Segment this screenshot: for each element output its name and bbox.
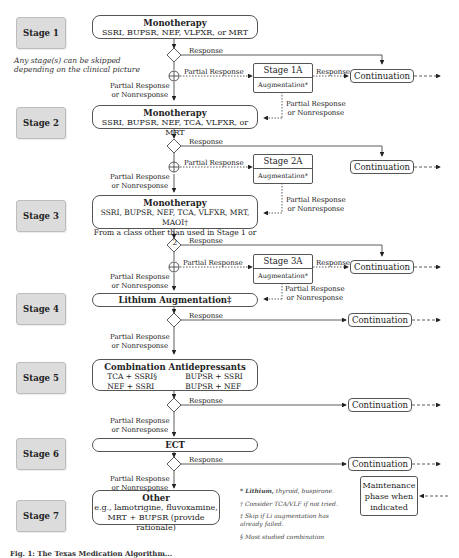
- continuation-box-2: Continuation: [350, 160, 414, 174]
- response-label: Response: [189, 47, 223, 56]
- response-label: Response: [189, 138, 223, 147]
- aug-response-label: Response: [316, 68, 350, 77]
- pr-nr-label: Partial Responseor Nonresponse: [110, 82, 170, 99]
- aug-pr-nr-label: Partial Responseor Nonresponse: [286, 196, 346, 213]
- stage-2a-augmentation-box: Stage 2A Augmentation*: [253, 154, 313, 184]
- response-label: Response: [189, 397, 223, 406]
- response-label: Response: [189, 237, 223, 246]
- pr-nr-label: Partial Responseor Nonresponse: [110, 333, 170, 350]
- response-label: Response: [189, 312, 223, 321]
- aug-response-label: Response: [316, 259, 350, 268]
- stage-5-combination-box: Combination Antidepressants TCA + SSRI§N…: [92, 359, 258, 391]
- stage-1-label: Stage 1: [16, 17, 66, 49]
- stage-6-ect-box: ECT: [92, 438, 258, 452]
- continuation-box-5: Continuation: [348, 398, 412, 412]
- stage-7-label: Stage 7: [16, 500, 66, 532]
- stage-4-label: Stage 4: [16, 293, 66, 325]
- stage-1a-augmentation-box: Stage 1A Augmentation*: [253, 63, 313, 93]
- figure-caption: Fig. 1: The Texas Medication Algorithm..…: [10, 549, 172, 558]
- continuation-box-6: Continuation: [348, 457, 412, 471]
- stage-7-other-box: Other e.g., lamotrigine, fluvoxamine, MR…: [92, 490, 220, 525]
- stage-3-monotherapy-box: Monotherapy SSRI, BUPSR, NEF, TCA, VLFXR…: [92, 195, 258, 229]
- footnote-tca: † Consider TCA/VLF if not tried.: [240, 500, 338, 508]
- stage-2-label: Stage 2: [16, 107, 66, 139]
- partial-response-label: Partial Response: [184, 68, 244, 77]
- stage-3-label: Stage 3: [16, 200, 66, 232]
- continuation-box-3: Continuation: [350, 260, 414, 274]
- continuation-box-1: Continuation: [350, 69, 414, 83]
- stage-4-lithium-box: Lithium Augmentation‡: [92, 293, 258, 307]
- pr-nr-label: Partial Responseor Nonresponse: [110, 417, 170, 434]
- maintenance-phase-box: Maintenance phase when indicated: [360, 476, 418, 516]
- stage-2-monotherapy-box: Monotherapy SSRI, BUPSR, NEF, TCA, VLFXR…: [92, 105, 258, 129]
- footnote-lithium: ‡ Skip if Li augmentation hasalready fai…: [240, 512, 329, 528]
- stage-1-monotherapy-box: Monotherapy SSRI, BUPSR, NEF, VLFXR, or …: [92, 15, 258, 39]
- skip-note: Any stage(s) can be skipped depending on…: [14, 56, 140, 74]
- aug-pr-nr-label: Partial Responseor Nonresponse: [286, 100, 346, 117]
- stage-6-label: Stage 6: [16, 438, 66, 470]
- pr-nr-label: Partial Responseor Nonresponse: [110, 475, 170, 492]
- partial-response-label: Partial Response: [183, 259, 243, 268]
- footnote-augmentation: * Lithium, thyroid, buspirone.: [240, 487, 334, 495]
- stage-3a-augmentation-box: Stage 3A Augmentation*: [253, 254, 313, 284]
- pr-nr-label: Partial Responseor Nonresponse: [110, 173, 170, 190]
- response-label: Response: [189, 456, 223, 465]
- footnote-combination: § Most studied combination: [240, 533, 324, 541]
- partial-response-label: Partial Response: [184, 159, 244, 168]
- stage-5-label: Stage 5: [16, 362, 66, 394]
- pr-nr-label: Partial Responseor Nonresponse: [110, 273, 170, 290]
- continuation-box-4: Continuation: [348, 313, 412, 327]
- aug-pr-nr-label: Partial Responseor Nonresponse: [285, 285, 345, 302]
